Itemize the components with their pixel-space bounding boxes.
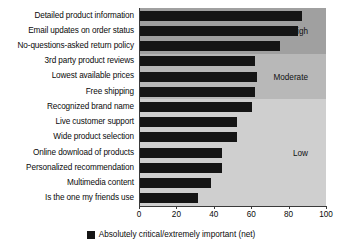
plot-area: HighModerateLow (139, 8, 326, 206)
bar-rows (140, 8, 326, 206)
bar (140, 72, 257, 82)
bar-row (140, 38, 326, 53)
bar-row (140, 145, 326, 160)
bar (140, 117, 237, 127)
bar (140, 102, 252, 112)
category-label: Detailed product information (0, 8, 137, 23)
bar-row (140, 130, 326, 145)
bar (140, 178, 211, 188)
category-label: Recognized brand name (0, 99, 137, 114)
category-label: 3rd party product reviews (0, 54, 137, 69)
x-axis-tick (289, 206, 290, 209)
x-axis-tick-label: 100 (319, 210, 333, 219)
bar (140, 56, 255, 66)
bar-chart: Detailed product informationEmail update… (0, 0, 342, 251)
bar-row (140, 54, 326, 69)
legend-label: Absolutely critical/extremely important … (99, 230, 256, 239)
x-axis-tick (326, 206, 327, 209)
bar-row (140, 115, 326, 130)
x-axis-tick (176, 206, 177, 209)
bar-row (140, 8, 326, 23)
category-label: Wide product selection (0, 130, 137, 145)
bar-row (140, 69, 326, 84)
category-label: Online download of products (0, 145, 137, 160)
x-axis-tick-label: 0 (137, 210, 142, 219)
x-axis-tick (251, 206, 252, 209)
chart-legend: Absolutely critical/extremely important … (0, 230, 342, 239)
category-label: No-questions-asked return policy (0, 38, 137, 53)
category-label: Email updates on order status (0, 23, 137, 38)
x-axis: 020406080100 (139, 206, 326, 207)
category-label: Live customer support (0, 115, 137, 130)
bar-row (140, 191, 326, 206)
category-label: Lowest available prices (0, 69, 137, 84)
bar (140, 26, 298, 36)
category-label: Multimedia content (0, 176, 137, 191)
category-label: Personalized recommendation (0, 160, 137, 175)
category-label: Is the one my friends use (0, 191, 137, 206)
bar (140, 163, 222, 173)
x-axis-tick-label: 20 (172, 210, 181, 219)
bar-row (140, 99, 326, 114)
category-axis-labels: Detailed product informationEmail update… (0, 8, 137, 206)
bar (140, 87, 255, 97)
x-axis-tick-label: 40 (209, 210, 218, 219)
x-axis-tick (214, 206, 215, 209)
bar (140, 132, 237, 142)
bar-row (140, 84, 326, 99)
bar (140, 148, 222, 158)
x-axis-tick-label: 80 (284, 210, 293, 219)
legend-swatch (87, 231, 95, 239)
bar (140, 193, 198, 203)
bar (140, 41, 280, 51)
x-axis-tick (139, 206, 140, 209)
bar-row (140, 160, 326, 175)
category-label: Free shipping (0, 84, 137, 99)
bar-row (140, 176, 326, 191)
bar-row (140, 23, 326, 38)
x-axis-tick-label: 60 (247, 210, 256, 219)
bar (140, 11, 302, 21)
